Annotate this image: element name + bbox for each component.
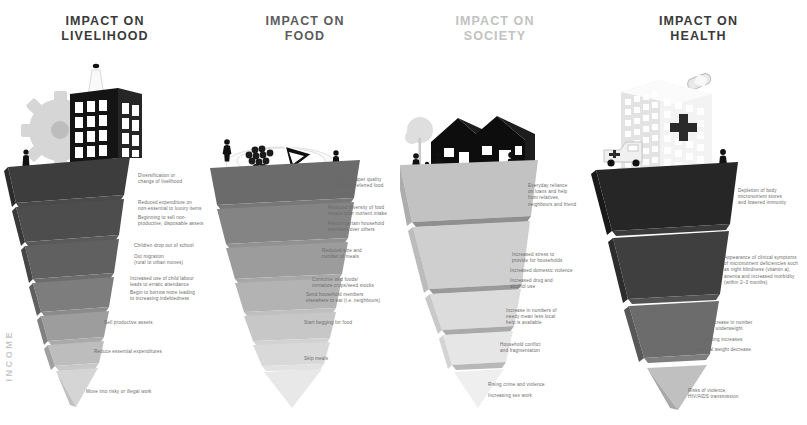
label-health-5: Maternal weight decrease [694, 347, 751, 353]
label-livelihood-8: Sell productive assets [104, 320, 153, 326]
label-society-8: Increasing sex work [488, 393, 532, 399]
label-livelihood-2: Reduced expenditure on non-essential to … [138, 200, 201, 212]
title-line-1: IMPACT ON [455, 14, 534, 28]
label-society-3: Increased domestic violence [510, 268, 573, 274]
label-food-6: Send household members elsewhere to eat … [306, 292, 380, 304]
title-line-2: SOCIETY [400, 29, 590, 44]
label-food-2: Reduced diversity of food means poor nut… [328, 205, 387, 217]
funnel-layer [400, 160, 538, 227]
column-society: IMPACT ON SOCIETY [400, 0, 590, 425]
column-title-health: IMPACT ON HEALTH [590, 14, 807, 43]
label-society-6: Household conflict and fragmentation [500, 342, 541, 354]
label-society-5: Increase in numbers of needy mean less l… [506, 308, 557, 327]
funnel-layer [244, 312, 336, 346]
column-livelihood: IMPACT ON LIVELIHOOD [0, 0, 210, 425]
label-health-1: Depletion of body micronutrient stores a… [738, 188, 786, 207]
label-society-7: Rising crime and violence [488, 382, 545, 388]
label-society-2: Increased stress to provide for househol… [512, 252, 562, 264]
label-food-5: Consume wild foods/ immature crops/seed … [312, 277, 374, 289]
label-health-6: Risks of violence, HIV/AIDS transmission [688, 388, 739, 400]
label-health-2: Appearance of clinical symptoms of micro… [724, 255, 798, 286]
funnel-layer [591, 162, 738, 236]
funnel-layer [12, 199, 124, 247]
title-line-2: LIVELIHOOD [0, 29, 210, 44]
label-livelihood-7: Begin to borrow more leading to increasi… [130, 290, 195, 302]
label-livelihood-3: Beginning to sell non- productive, dispo… [138, 215, 203, 227]
title-line-1: IMPACT ON [65, 14, 144, 28]
label-livelihood-6: Increased use of child labour leads to e… [130, 276, 194, 288]
label-society-1: Everyday reliance on loans and help from… [528, 183, 576, 208]
column-title-food: IMPACT ON FOOD [210, 14, 400, 43]
title-line-2: FOOD [210, 29, 400, 44]
funnel-layer [37, 311, 109, 346]
title-line-1: IMPACT ON [659, 14, 738, 28]
funnel-layer [29, 277, 114, 317]
column-title-livelihood: IMPACT ON LIVELIHOOD [0, 14, 210, 43]
label-livelihood-10: Move into risky or illegal work [86, 389, 152, 395]
column-title-society: IMPACT ON SOCIETY [400, 14, 590, 43]
label-livelihood-9: Reduce essential expenditures [94, 349, 162, 355]
infographic-root: INCOME IMPACT ON LIVELIHOOD [0, 0, 807, 425]
label-food-4: Reduced size and number of meals [322, 248, 362, 260]
funnel-layer [21, 239, 119, 284]
label-food-3: Favour certain household members over ot… [328, 221, 384, 233]
funnel-layer [624, 301, 719, 363]
label-livelihood-5: Out migration (rural to urban moves) [134, 254, 183, 266]
label-society-4: Increased drug and alcohol use [510, 278, 553, 290]
factory-building-icon [70, 88, 142, 165]
label-livelihood-1: Diversification or change of livelihood [138, 173, 182, 185]
title-line-2: HEALTH [590, 29, 807, 44]
label-health-4: Wasting increases [702, 337, 742, 343]
label-food-7: Start begging for food [304, 320, 352, 326]
funnel-layer [44, 341, 104, 371]
title-line-1: IMPACT ON [265, 14, 344, 28]
label-food-8: Skip meals [304, 356, 328, 362]
column-health: IMPACT ON HEALTH [590, 0, 807, 425]
funnel-layer [608, 231, 729, 304]
funnel-tip [56, 368, 98, 407]
funnel-tip [454, 369, 504, 408]
label-health-3: Increase in number of underweight [710, 320, 753, 332]
funnel-tip [264, 369, 322, 408]
column-food: IMPACT ON FOOD [210, 0, 400, 425]
label-food-1: Eating cheaper quality and less preferre… [332, 177, 383, 189]
label-livelihood-4: Children drop out of school [134, 243, 194, 249]
